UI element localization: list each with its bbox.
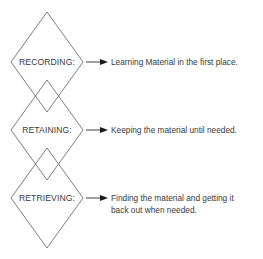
recording-description: Learning Material in the first place. <box>111 57 238 67</box>
retrieving-description-line-1: Finding the material and getting it <box>111 193 234 203</box>
memory-stages-diagram: RECORDING: Learning Material in the firs… <box>0 0 263 259</box>
recording-label: RECORDING: <box>19 57 75 67</box>
stage-recording: RECORDING: Learning Material in the firs… <box>11 12 238 112</box>
retrieving-description-line-2: back out when needed. <box>111 205 197 215</box>
retrieving-arrow-icon <box>86 195 108 201</box>
retaining-arrow-icon <box>86 127 108 133</box>
retrieving-label: RETRIEVING: <box>19 193 75 203</box>
stage-retrieving: RETRIEVING: Finding the material and get… <box>11 148 234 248</box>
recording-arrow-icon <box>86 59 108 65</box>
retaining-description: Keeping the material until needed. <box>111 125 237 135</box>
stage-retaining: RETAINING: Keeping the material until ne… <box>11 80 237 180</box>
retaining-label: RETAINING: <box>22 125 72 135</box>
